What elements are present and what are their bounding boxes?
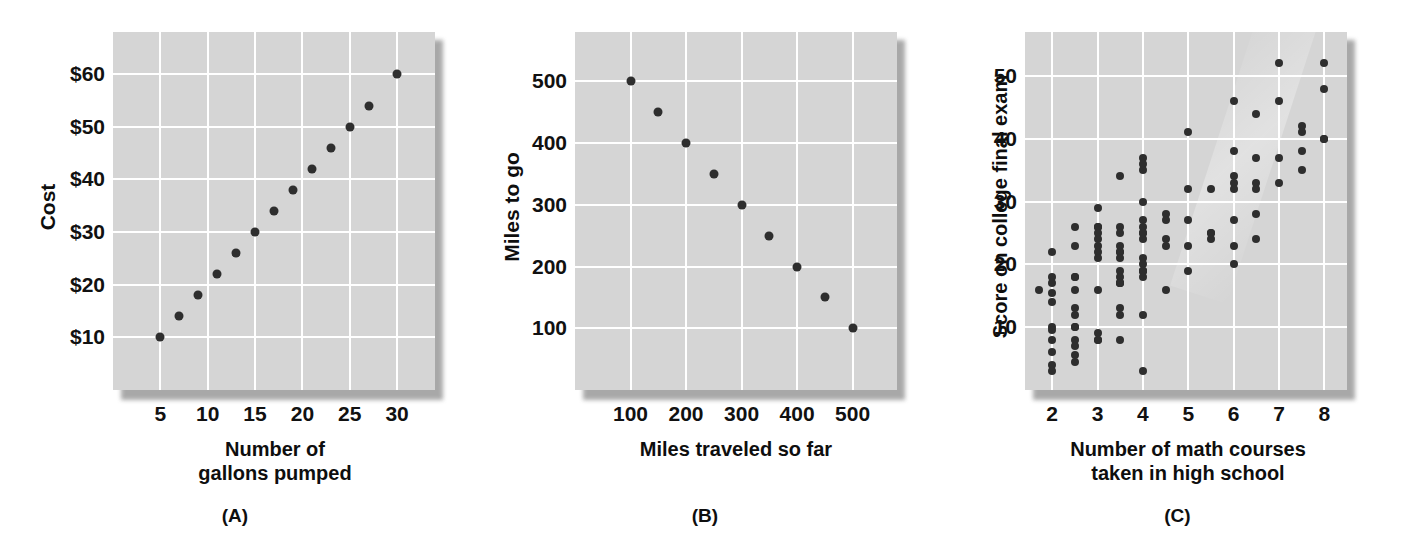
x-axis-tick-label: 6 (1228, 402, 1240, 426)
x-axis-tick-label: 400 (780, 402, 815, 426)
y-axis-tick-label: 40 (940, 127, 1017, 151)
x-axis-tick-label: 7 (1273, 402, 1285, 426)
data-point (848, 324, 857, 333)
data-point (1298, 128, 1306, 136)
gridline-horizontal (575, 266, 897, 268)
data-point (1252, 210, 1260, 218)
data-point (1116, 254, 1124, 262)
gridline-vertical (852, 32, 854, 390)
data-point (1116, 311, 1124, 319)
data-point (1320, 135, 1328, 143)
y-axis-tick-label: 400 (470, 131, 567, 155)
data-point (1071, 242, 1079, 250)
data-point (1116, 229, 1124, 237)
panel-c-x-axis-label-line2: taken in high school (1091, 462, 1284, 484)
data-point (1094, 286, 1102, 294)
data-point (1116, 172, 1124, 180)
data-point (1320, 59, 1328, 67)
data-point (393, 70, 402, 79)
panel-a-x-axis-label: Number of gallons pumped (130, 438, 420, 485)
data-point (232, 249, 241, 258)
data-point (765, 231, 774, 240)
data-point (1230, 147, 1238, 155)
data-point (1275, 59, 1283, 67)
panel-c-plot-area (1025, 32, 1347, 390)
y-axis-tick-label: 20 (940, 252, 1017, 276)
x-axis-tick-label: 15 (243, 402, 266, 426)
data-point (793, 262, 802, 271)
x-axis-tick-label: 2 (1046, 402, 1058, 426)
x-axis-tick-label: 8 (1318, 402, 1330, 426)
data-point (1071, 273, 1079, 281)
gridline-vertical (685, 32, 687, 390)
data-point (1230, 185, 1238, 193)
y-axis-tick-label: $20 (0, 273, 105, 297)
data-point (1162, 286, 1170, 294)
panel-b-caption: (B) (470, 505, 940, 527)
panel-a: Cost Number of gallons pumped (A) $10$20… (0, 0, 470, 544)
data-point (1184, 242, 1192, 250)
gridline-vertical (1187, 32, 1189, 390)
data-point (682, 139, 691, 148)
data-point (1048, 367, 1056, 375)
gridline-vertical (796, 32, 798, 390)
y-axis-tick-label: 200 (470, 255, 567, 279)
gridline-horizontal (1025, 201, 1347, 203)
data-point (1071, 358, 1079, 366)
data-point (1071, 342, 1079, 350)
data-point (345, 122, 354, 131)
data-point (1116, 279, 1124, 287)
gridline-vertical (741, 32, 743, 390)
data-point (213, 270, 222, 279)
data-point (654, 108, 663, 117)
data-point (1252, 185, 1260, 193)
data-point (1139, 311, 1147, 319)
gridline-horizontal (575, 142, 897, 144)
gridline-horizontal (575, 80, 897, 82)
data-point (175, 312, 184, 321)
x-axis-tick-label: 5 (155, 402, 167, 426)
panel-c: Score on college final exam Number of ma… (940, 0, 1415, 544)
data-point (1139, 367, 1147, 375)
data-point (270, 207, 279, 216)
gridline-vertical (301, 32, 303, 390)
data-point (156, 333, 165, 342)
panel-a-caption: (A) (0, 505, 470, 527)
data-point (307, 164, 316, 173)
y-axis-tick-label: $60 (0, 62, 105, 86)
data-point (1184, 128, 1192, 136)
data-point (1320, 85, 1328, 93)
data-point (1252, 154, 1260, 162)
data-point (1207, 235, 1215, 243)
y-axis-tick-label: 300 (470, 193, 567, 217)
x-axis-tick-label: 30 (385, 402, 408, 426)
data-point (1184, 216, 1192, 224)
gridline-vertical (1278, 32, 1280, 390)
data-point (1139, 166, 1147, 174)
gridline-vertical (254, 32, 256, 390)
data-point (1094, 254, 1102, 262)
y-axis-tick-label: 30 (940, 190, 1017, 214)
x-axis-tick-label: 3 (1092, 402, 1104, 426)
y-axis-tick-label: $10 (0, 325, 105, 349)
gridline-vertical (349, 32, 351, 390)
panel-b: Miles to go Miles traveled so far (B) 10… (470, 0, 940, 544)
data-point (626, 77, 635, 86)
gridline-horizontal (1025, 263, 1347, 265)
data-point (1139, 235, 1147, 243)
data-point (1298, 166, 1306, 174)
panel-c-caption: (C) (940, 505, 1415, 527)
y-axis-tick-label: $30 (0, 220, 105, 244)
data-point (326, 143, 335, 152)
y-axis-tick-label: $40 (0, 167, 105, 191)
data-point (1252, 110, 1260, 118)
data-point (1048, 289, 1056, 297)
data-point (1230, 242, 1238, 250)
data-point (1139, 273, 1147, 281)
panel-b-plot-area (575, 32, 897, 390)
panel-b-x-axis-label-line1: Miles traveled so far (640, 438, 832, 460)
data-point (709, 169, 718, 178)
gridline-vertical (207, 32, 209, 390)
data-point (1275, 154, 1283, 162)
gridline-horizontal (1025, 138, 1347, 140)
